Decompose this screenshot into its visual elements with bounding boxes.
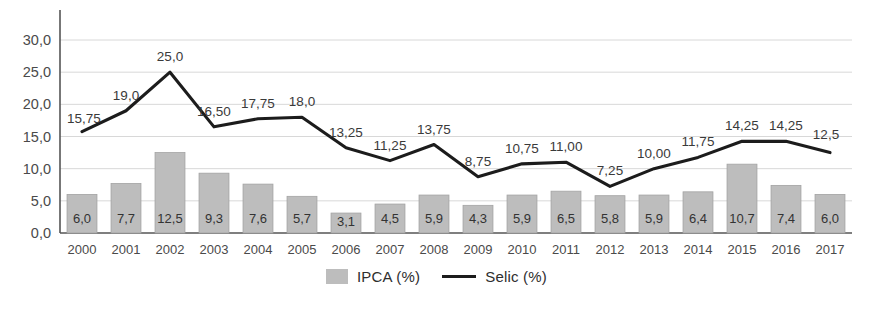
bar-value-labels: 6,07,712,59,37,65,73,14,55,94,35,96,55,8… (73, 211, 839, 229)
bar-value-label: 7,4 (777, 211, 795, 226)
x-tick-label: 2001 (112, 242, 141, 257)
bar-value-label: 7,6 (249, 211, 267, 226)
x-tick-label: 2013 (640, 242, 669, 257)
x-tick-label: 2014 (684, 242, 713, 257)
legend-label-ipca: IPCA (%) (357, 268, 420, 285)
bar-value-label: 5,8 (601, 211, 619, 226)
x-tick-label: 2016 (772, 242, 801, 257)
x-tick-label: 2006 (332, 242, 361, 257)
line-value-label: 11,00 (550, 139, 583, 154)
chart-legend: IPCA (%) Selic (%) (0, 268, 873, 285)
bar-value-label: 4,3 (469, 211, 487, 226)
line-value-label: 25,0 (157, 49, 183, 64)
bar-value-label: 5,9 (513, 211, 531, 226)
bar-value-label: 6,5 (557, 211, 575, 226)
legend-label-selic: Selic (%) (485, 268, 547, 285)
line-value-label: 17,75 (241, 96, 275, 111)
ipca-selic-chart: 0,05,010,015,020,025,030,06,07,712,59,37… (0, 0, 873, 312)
line-value-label: 14,25 (725, 118, 759, 133)
x-tick-label: 2017 (816, 242, 845, 257)
x-tick-label: 2003 (200, 242, 229, 257)
x-tick-label: 2007 (376, 242, 405, 257)
legend-item-selic[interactable]: Selic (%) (442, 268, 547, 285)
line-value-label: 13,75 (417, 122, 451, 137)
bar-value-label: 6,0 (821, 211, 839, 226)
chart-plot-area: 0,05,010,015,020,025,030,06,07,712,59,37… (0, 0, 873, 312)
y-tick-label: 20,0 (23, 96, 51, 112)
line-value-label: 14,25 (769, 118, 803, 133)
bar-value-label: 9,3 (205, 211, 223, 226)
x-tick-label: 2000 (68, 242, 97, 257)
line-value-label: 10,00 (637, 146, 671, 161)
x-tick-label: 2012 (596, 242, 625, 257)
x-tick-label: 2011 (552, 242, 580, 257)
line-value-label: 13,25 (329, 125, 363, 140)
line-value-label: 15,75 (67, 111, 101, 126)
line-series-selic[interactable] (82, 72, 830, 186)
bar-value-label: 12,5 (157, 211, 182, 226)
bar-value-label: 6,0 (73, 211, 91, 226)
legend-item-ipca[interactable]: IPCA (%) (326, 268, 420, 285)
bar-swatch-icon (326, 269, 348, 284)
line-value-label: 10,75 (505, 141, 539, 156)
line-value-label: 16,50 (197, 104, 231, 119)
line-value-label: 12,5 (813, 127, 839, 142)
x-tick-label: 2010 (508, 242, 537, 257)
y-tick-label: 15,0 (23, 129, 51, 145)
x-tick-label: 2005 (288, 242, 317, 257)
line-value-label: 11,75 (682, 134, 715, 149)
bar-value-label: 3,1 (337, 214, 355, 229)
x-tick-label: 2004 (244, 242, 273, 257)
x-tick-label: 2002 (156, 242, 185, 257)
y-tick-label: 10,0 (23, 161, 51, 177)
y-tick-label: 25,0 (23, 64, 51, 80)
x-axis-category-labels: 2000200120022003200420052006200720082009… (68, 242, 845, 257)
line-value-label: 11,25 (374, 138, 407, 153)
line-swatch-icon (442, 275, 476, 278)
y-tick-label: 5,0 (31, 193, 51, 209)
y-tick-label: 0,0 (31, 225, 51, 241)
line-value-label: 7,25 (597, 163, 623, 178)
y-axis-tick-labels: 0,05,010,015,020,025,030,0 (23, 32, 51, 241)
x-tick-label: 2015 (728, 242, 757, 257)
line-value-label: 18,0 (289, 94, 315, 109)
bar-value-label: 4,5 (381, 211, 399, 226)
line-value-label: 8,75 (465, 154, 491, 169)
bar-value-label: 5,7 (293, 211, 311, 226)
x-tick-label: 2008 (420, 242, 449, 257)
line-value-label: 19,0 (113, 88, 139, 103)
bar-value-label: 5,9 (645, 211, 663, 226)
bar-series-ipca (67, 153, 845, 233)
bar-value-label: 7,7 (117, 211, 135, 226)
bar-value-label: 6,4 (689, 211, 707, 226)
x-tick-label: 2009 (464, 242, 493, 257)
bar-value-label: 5,9 (425, 211, 443, 226)
bar-value-label: 10,7 (729, 211, 754, 226)
y-tick-label: 30,0 (23, 32, 51, 48)
